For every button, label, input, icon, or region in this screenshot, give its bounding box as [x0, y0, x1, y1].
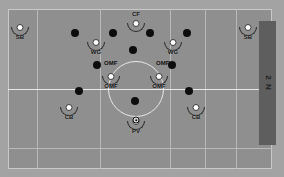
- side-panel[interactable]: 2 N: [259, 21, 276, 145]
- opponent-marker: [109, 29, 117, 37]
- player-head-icon: [66, 104, 73, 111]
- player-sb-right[interactable]: SB: [235, 22, 261, 44]
- player-label: PV: [132, 128, 140, 135]
- player-sb-left[interactable]: SB: [7, 22, 33, 44]
- player-omf-left[interactable]: OMF: [98, 71, 124, 93]
- player-cb-left[interactable]: CB: [56, 102, 82, 124]
- side-panel-label: 2 N: [263, 75, 272, 90]
- player-cf[interactable]: CF: [123, 18, 149, 40]
- opponent-marker: [131, 97, 139, 105]
- player-label: CB: [65, 114, 74, 121]
- player-head-icon: [170, 39, 177, 46]
- formation-diagram-root: 2 N SB CF SB WG WG OMF: [0, 0, 284, 177]
- player-wg-right[interactable]: WG: [160, 37, 186, 59]
- player-head-icon: [108, 73, 115, 80]
- opponent-marker: [71, 29, 79, 37]
- player-wg-left[interactable]: WG: [83, 37, 109, 59]
- player-head-icon: [17, 24, 24, 31]
- opponent-marker: [129, 46, 137, 54]
- player-label-omf-left-upper: OMF: [104, 60, 117, 66]
- player-label: OMF: [152, 83, 165, 90]
- player-label-omf-right-upper: OMF: [156, 60, 169, 66]
- opponent-marker: [75, 87, 83, 95]
- player-label: WG: [168, 49, 178, 56]
- player-label: WG: [91, 49, 101, 56]
- grid-horizontal-line: [8, 148, 272, 149]
- player-label: SB: [16, 34, 24, 41]
- player-omf-right[interactable]: OMF: [146, 71, 172, 93]
- player-head-icon: [133, 20, 140, 27]
- opponent-marker: [93, 61, 101, 69]
- player-head-icon: [156, 73, 163, 80]
- player-label: SB: [244, 34, 252, 41]
- opponent-marker: [185, 87, 193, 95]
- ball-icon: [133, 117, 140, 124]
- player-label: CF: [132, 11, 140, 18]
- player-head-icon: [245, 24, 252, 31]
- player-label: CB: [192, 114, 201, 121]
- opponent-marker: [183, 29, 191, 37]
- player-cb-right[interactable]: CB: [183, 102, 209, 124]
- player-label: OMF: [104, 83, 117, 90]
- player-head-icon: [193, 104, 200, 111]
- player-head-icon: [93, 39, 100, 46]
